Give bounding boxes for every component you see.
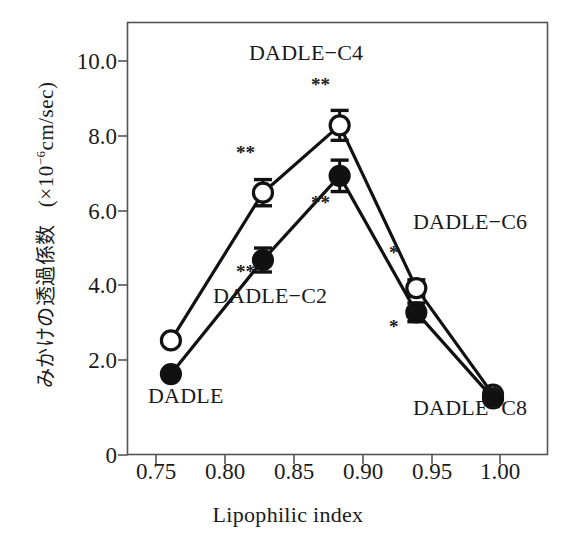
x-tick-label: 0.80: [205, 460, 245, 483]
error-bars-open-circle: [254, 110, 425, 296]
permeability-chart-figure: みかけの透過係数 (×10−6cm/sec) 0 2.0 4.0 6.0 8.0…: [0, 0, 576, 552]
x-tick-label: 0.85: [274, 460, 314, 483]
point-label-dadle: DADLE: [148, 385, 224, 407]
series-line-open-circle: [171, 125, 493, 394]
data-point-filled-circle: [407, 303, 426, 322]
y-tick-marks: [118, 61, 128, 455]
data-point-open-circle: [330, 116, 349, 135]
significance-c8-open: **: [483, 382, 502, 401]
x-tick-label: 0.75: [136, 460, 176, 483]
x-tick-label: 1.00: [480, 460, 520, 483]
data-point-open-circle: [253, 183, 272, 202]
x-tick-label: 0.95: [412, 460, 452, 483]
x-axis-tick-labels: 0.75 0.80 0.85 0.90 0.95 1.00: [0, 460, 576, 500]
significance-c6-open: *: [389, 243, 399, 262]
data-point-filled-circle: [253, 251, 272, 270]
significance-c6-filled: *: [389, 317, 399, 336]
data-point-filled-circle: [161, 365, 180, 384]
data-point-open-circle: [407, 279, 426, 298]
point-label-dadle-c6: DADLE−C6: [413, 211, 527, 233]
data-point-open-circle: [161, 331, 180, 350]
significance-c2-open: **: [236, 143, 255, 162]
data-point-filled-circle: [330, 166, 349, 185]
point-label-dadle-c8: DADLE−C8: [413, 397, 527, 419]
point-label-dadle-c4: DADLE−C4: [249, 42, 363, 64]
significance-c4-filled: **: [311, 193, 330, 212]
significance-c2-filled: **: [236, 262, 255, 281]
point-label-dadle-c2: DADLE−C2: [213, 285, 327, 307]
significance-c4-open: **: [311, 75, 330, 94]
x-tick-label: 0.90: [343, 460, 383, 483]
x-axis-title: Lipophilic index: [0, 502, 576, 528]
